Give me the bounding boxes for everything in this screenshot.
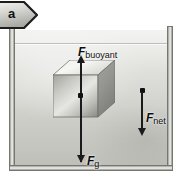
label-force-buoyant: Fbuoyant (78, 46, 117, 58)
physics-diagram-buoyancy: Fbuoyant Fnet Fg a (0, 0, 181, 185)
label-force-net: Fnet (146, 112, 166, 124)
panel-tag: a (0, 1, 38, 29)
water-surface-highlight (13, 44, 169, 45)
tank-wall-left (9, 26, 15, 171)
label-force-gravity: Fg (87, 155, 99, 167)
arrow-shaft-net (141, 92, 143, 130)
panel-tag-label: a (8, 7, 15, 20)
subscript-net: net (153, 116, 166, 126)
tank-wall-right (167, 26, 173, 171)
arrowhead-down-net (138, 128, 146, 136)
pentagon-tag-icon (0, 1, 38, 29)
arrow-shaft-buoyant (80, 62, 82, 162)
cube-right-face (98, 60, 115, 117)
cube-front-face (53, 75, 98, 117)
center-of-mass-dot (78, 93, 83, 98)
subscript-buoyant: buoyant (85, 50, 117, 60)
subscript-gravity: g (94, 159, 99, 169)
cube-shape (53, 60, 115, 118)
arrowhead-down-gravity (77, 155, 85, 163)
submerged-cube (53, 60, 115, 118)
